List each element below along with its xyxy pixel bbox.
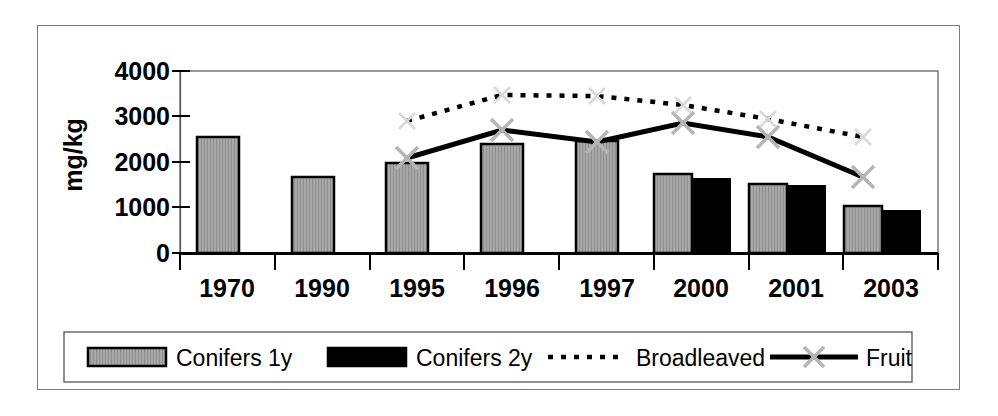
legend-item-conifers-1y: Conifers 1y xyxy=(88,345,293,371)
legend-label: Conifers 2y xyxy=(416,345,533,371)
bar xyxy=(481,144,523,253)
y-axis-label: mg/kg xyxy=(59,118,87,192)
x-category-label: 2001 xyxy=(768,274,824,302)
broadleaved-markers xyxy=(399,87,871,145)
y-tick-label: 3000 xyxy=(114,102,170,130)
legend-label: Conifers 1y xyxy=(176,345,293,371)
x-category-label: 1990 xyxy=(294,274,350,302)
x-category-label: 2000 xyxy=(673,274,729,302)
bars-conifers-1y xyxy=(197,137,882,253)
x-category-label: 1996 xyxy=(484,274,540,302)
gray-hatched-swatch-icon xyxy=(88,348,166,366)
chart-legend: Conifers 1y Conifers 2y Broadleaved Frui… xyxy=(64,332,913,382)
y-tick-label: 4000 xyxy=(114,57,170,85)
bar xyxy=(654,174,692,253)
bar xyxy=(882,211,920,253)
bar xyxy=(386,163,428,253)
bar xyxy=(844,206,882,253)
x-category-label: 1970 xyxy=(199,274,255,302)
y-tick-label: 0 xyxy=(156,239,170,267)
y-tick-label: 1000 xyxy=(114,193,170,221)
bars-conifers-2y xyxy=(692,179,920,253)
legend-label: Broadleaved xyxy=(636,345,765,371)
bar xyxy=(576,141,618,253)
bar-line-combo-chart: mg/kg 4000 3000 2000 1000 0 xyxy=(0,0,998,416)
chart-screenshot: mg/kg 4000 3000 2000 1000 0 xyxy=(0,0,998,416)
x-category-label: 1995 xyxy=(389,274,445,302)
bar xyxy=(692,179,730,253)
x-axis-categories: 1970 1990 1995 1996 1997 2000 2001 2003 xyxy=(199,274,919,302)
y-tick-label: 2000 xyxy=(114,148,170,176)
line-fruit xyxy=(396,112,874,188)
legend-item-conifers-2y: Conifers 2y xyxy=(328,345,533,371)
x-category-label: 2003 xyxy=(863,274,919,302)
bar xyxy=(749,184,787,253)
legend-label: Fruit xyxy=(866,345,913,371)
black-swatch-icon xyxy=(328,348,406,366)
bar xyxy=(197,137,239,253)
line-broadleaved xyxy=(407,95,863,137)
y-axis-ticklabels: 4000 3000 2000 1000 0 xyxy=(114,57,170,267)
y-axis-label-text: mg/kg xyxy=(59,118,87,192)
x-axis-ticks xyxy=(180,253,938,270)
bar xyxy=(292,177,334,253)
bar xyxy=(787,186,825,253)
x-category-label: 1997 xyxy=(579,274,635,302)
